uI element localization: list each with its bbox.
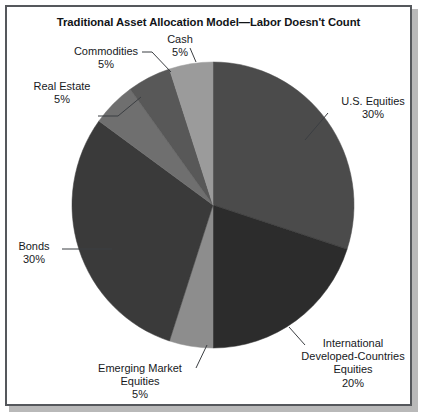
slice-label-emerging: Emerging Market Equities 5% xyxy=(88,362,192,402)
slice-label-commodities-pct: 5% xyxy=(64,58,148,71)
slice-label-bonds: Bonds 30% xyxy=(9,240,59,266)
slice-label-us-equities-pct: 30% xyxy=(330,108,416,121)
slice-label-real-estate-pct: 5% xyxy=(24,93,100,106)
pie-slices xyxy=(72,62,354,348)
slice-label-international-line2: Developed-Countries xyxy=(291,350,415,363)
slice-label-cash-pct: 5% xyxy=(157,46,203,59)
slice-label-international: International Developed-Countries Equiti… xyxy=(291,337,415,390)
slice-label-international-line3: Equities xyxy=(291,363,415,376)
slice-label-emerging-line1: Emerging Market xyxy=(98,362,182,374)
slice-label-commodities: Commodities 5% xyxy=(64,45,148,71)
slice-label-real-estate-name: Real Estate xyxy=(34,80,91,92)
slice-label-emerging-pct: 5% xyxy=(88,388,192,401)
slice-label-real-estate: Real Estate 5% xyxy=(24,80,100,106)
slice-label-international-line1: International xyxy=(323,337,384,349)
slice-label-bonds-pct: 30% xyxy=(9,253,59,266)
slice-label-us-equities-name: U.S. Equities xyxy=(341,95,405,107)
slice-label-bonds-name: Bonds xyxy=(18,240,49,252)
slice-label-international-pct: 20% xyxy=(291,377,415,390)
figure-page: Traditional Asset Allocation Model—Labor… xyxy=(0,0,422,416)
slice-label-cash-name: Cash xyxy=(167,33,193,45)
slice-label-commodities-name: Commodities xyxy=(74,45,138,57)
leader-line-emerging xyxy=(196,345,207,368)
slice-label-emerging-line2: Equities xyxy=(88,375,192,388)
slice-label-cash: Cash 5% xyxy=(157,33,203,59)
slice-label-us-equities: U.S. Equities 30% xyxy=(330,95,416,121)
